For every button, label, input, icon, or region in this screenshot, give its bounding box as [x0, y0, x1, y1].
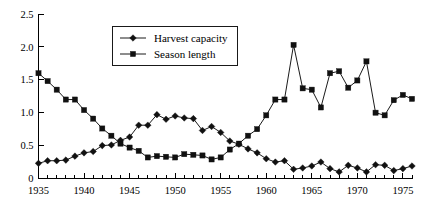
chart-container: 00.51.01.52.02.5 19351940194519501955196… [0, 0, 422, 212]
data-point-marker-square [264, 113, 269, 118]
x-tick-label: 1940 [74, 185, 95, 196]
data-point-marker-square [209, 157, 214, 162]
x-tick-label: 1945 [119, 185, 140, 196]
data-point-marker-square [337, 69, 342, 74]
data-point-marker-square [63, 97, 68, 102]
data-point-marker-square [291, 42, 296, 47]
data-point-marker-square [355, 78, 360, 83]
x-tick-label: 1970 [347, 185, 368, 196]
data-point-marker-diamond [390, 167, 397, 174]
data-point-marker-square [409, 96, 414, 101]
data-point-marker-square [364, 59, 369, 64]
legend-label: Season length [154, 48, 216, 60]
series-line [39, 115, 413, 172]
data-point-marker-diamond [245, 146, 252, 153]
data-point-marker-square [109, 133, 114, 138]
data-point-marker-square [173, 155, 178, 160]
x-axis-group: 193519401945195019551960196519701975 [28, 173, 413, 196]
data-point-marker-diamond [318, 159, 325, 166]
data-point-marker-diamond [336, 169, 343, 176]
data-point-marker-diamond [90, 148, 97, 155]
data-point-marker-square [136, 148, 141, 153]
data-point-marker-square [318, 105, 323, 110]
data-point-marker-diamond [44, 157, 51, 164]
data-point-marker-square [282, 97, 287, 102]
data-point-marker-diamond [272, 159, 279, 166]
data-point-marker-square [36, 71, 41, 76]
data-point-marker-diamond [181, 115, 188, 122]
y-tick-label: 2.5 [20, 9, 33, 20]
data-point-marker-square [100, 126, 105, 131]
data-point-marker-square [130, 51, 135, 56]
x-tick-label: 1975 [392, 185, 413, 196]
data-point-marker-diamond [99, 142, 106, 149]
y-axis-tick-labels: 00.51.01.52.02.5 [20, 9, 33, 185]
data-point-marker-diamond [354, 165, 361, 172]
data-point-marker-square [236, 141, 241, 146]
data-point-marker-diamond [208, 123, 215, 130]
y-axis-group: 00.51.01.52.02.5 [20, 9, 43, 185]
data-point-marker-diamond [72, 153, 79, 160]
data-point-marker-diamond [381, 162, 388, 169]
data-point-marker-diamond [299, 165, 306, 172]
x-tick-label: 1935 [28, 185, 49, 196]
data-point-marker-square [54, 87, 59, 92]
data-point-marker-diamond [108, 142, 115, 149]
x-tick-label: 1955 [210, 185, 231, 196]
data-point-marker-diamond [35, 160, 42, 167]
data-point-marker-square [182, 152, 187, 157]
line-chart: 00.51.01.52.02.5 19351940194519501955196… [0, 0, 422, 212]
data-point-marker-square [309, 87, 314, 92]
data-point-marker-diamond [53, 157, 60, 164]
data-point-marker-square [191, 152, 196, 157]
data-point-marker-square [72, 97, 77, 102]
data-point-marker-square [273, 97, 278, 102]
data-point-marker-diamond [308, 163, 315, 170]
data-point-marker-square [382, 113, 387, 118]
y-tick-label: 1.0 [20, 107, 33, 118]
data-point-marker-square [163, 154, 168, 159]
legend-label: Harvest capacity [154, 32, 228, 44]
data-point-marker-diamond [263, 155, 270, 162]
x-axis-tick-labels: 193519401945195019551960196519701975 [28, 185, 413, 196]
data-point-marker-square [45, 79, 50, 84]
data-point-marker-square [218, 155, 223, 160]
data-point-marker-diamond [400, 165, 407, 172]
data-point-marker-diamond [345, 162, 352, 169]
data-point-marker-diamond [327, 165, 334, 172]
data-point-marker-square [255, 127, 260, 132]
data-point-marker-square [118, 141, 123, 146]
data-point-marker-square [145, 155, 150, 160]
data-point-marker-square [200, 153, 205, 158]
data-point-marker-diamond [254, 150, 261, 157]
chart-legend: Harvest capacitySeason length [112, 26, 237, 65]
data-point-marker-square [346, 85, 351, 90]
y-axis-ticks [39, 14, 44, 179]
data-point-marker-diamond [409, 163, 416, 170]
y-tick-label: 0.5 [20, 140, 33, 151]
data-point-marker-square [400, 92, 405, 97]
y-tick-label: 0 [28, 173, 33, 184]
data-point-marker-square [91, 116, 96, 121]
x-tick-label: 1960 [256, 185, 277, 196]
data-point-marker-square [373, 110, 378, 115]
x-tick-label: 1965 [301, 185, 322, 196]
data-point-marker-square [81, 107, 86, 112]
data-point-marker-square [300, 86, 305, 91]
y-tick-label: 2.0 [20, 42, 33, 53]
x-axis-ticks [39, 173, 413, 179]
x-tick-label: 1950 [165, 185, 186, 196]
data-point-marker-square [127, 145, 132, 150]
data-point-marker-diamond [81, 150, 88, 157]
data-point-marker-diamond [172, 113, 179, 120]
data-point-marker-diamond [63, 157, 70, 164]
data-point-marker-diamond [163, 116, 170, 123]
y-tick-label: 1.5 [20, 74, 33, 85]
data-point-marker-square [227, 147, 232, 152]
data-point-marker-square [154, 154, 159, 159]
data-point-marker-square [245, 133, 250, 138]
data-point-marker-square [391, 98, 396, 103]
data-point-marker-square [327, 71, 332, 76]
